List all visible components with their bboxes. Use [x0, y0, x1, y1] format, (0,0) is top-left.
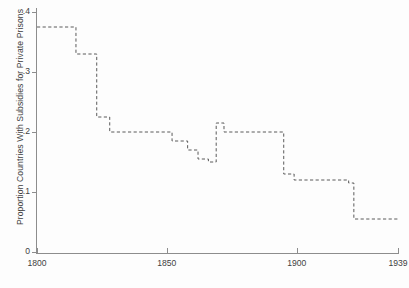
x-tick-label: 1850 — [157, 258, 176, 268]
x-tick-mark — [37, 248, 38, 253]
step-chart: Proportion Countries With Subsidies for … — [0, 0, 409, 288]
x-axis-line — [36, 253, 399, 254]
data-series-line — [0, 0, 409, 288]
series-path — [37, 27, 398, 219]
x-tick-label: 1939 — [388, 258, 407, 268]
y-tick-mark — [32, 192, 36, 193]
y-tick-mark — [32, 132, 36, 133]
y-tick-label: .3 — [23, 66, 30, 76]
x-tick-label: 1800 — [27, 258, 46, 268]
y-tick-label: .1 — [23, 186, 30, 196]
x-tick-mark — [167, 248, 168, 253]
y-tick-mark — [32, 72, 36, 73]
y-tick-mark — [32, 252, 36, 253]
y-tick-label: 0 — [25, 246, 30, 256]
y-axis-title: Proportion Countries With Subsidies for … — [15, 0, 25, 242]
y-tick-label: .4 — [23, 6, 30, 16]
x-tick-label: 1900 — [287, 258, 306, 268]
y-axis-line — [36, 8, 37, 254]
x-tick-mark — [398, 248, 399, 253]
y-tick-mark — [32, 12, 36, 13]
y-tick-label: .2 — [23, 126, 30, 136]
x-tick-mark — [297, 248, 298, 253]
